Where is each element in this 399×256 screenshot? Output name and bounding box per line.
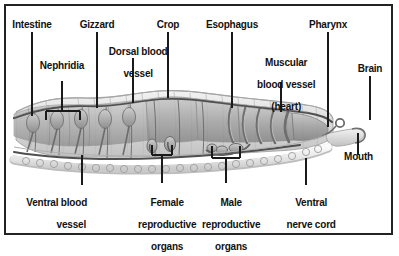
label-dorsal-blood-vessel-line1: Dorsal blood [109, 46, 168, 57]
label-muscular-blood-vessel-heart: Muscular blood vessel (heart) [244, 46, 318, 123]
label-pharynx: Pharynx [300, 19, 356, 30]
label-female-line3: organs [151, 241, 183, 252]
label-gizzard: Gizzard [67, 19, 127, 30]
label-nephridia: Nephridia [30, 60, 94, 71]
label-dorsal-blood-vessel-line2: vessel [123, 68, 152, 79]
label-nerve-cord-line2: nerve cord [287, 219, 336, 230]
label-mouth: Mouth [344, 151, 396, 162]
label-heart-line3: (heart) [271, 101, 301, 112]
label-female-line1: Female [151, 197, 184, 208]
label-nerve-cord-line1: Ventral [295, 197, 327, 208]
label-male-line3: organs [215, 241, 247, 252]
label-ventral-blood-vessel-line2: vessel [57, 219, 86, 230]
crop-organ [146, 97, 198, 143]
label-heart-line2: blood vessel [257, 79, 315, 90]
label-crop: Crop [140, 19, 196, 30]
label-ventral-blood-vessel: Ventral blood vessel [16, 186, 86, 241]
label-ventral-blood-vessel-line1: Ventral blood [26, 197, 87, 208]
label-brain: Brain [346, 63, 394, 74]
label-esophagus: Esophagus [200, 19, 264, 30]
label-intestine: Intestine [2, 19, 62, 30]
label-male-line2: reproductive [202, 219, 260, 230]
label-dorsal-blood-vessel: Dorsal blood vessel [96, 35, 170, 90]
label-ventral-nerve-cord: Ventral nerve cord [272, 186, 340, 241]
label-heart-line1: Muscular [265, 57, 307, 68]
label-male-reproductive-organs: Male reproductive organs [188, 186, 264, 256]
label-male-line1: Male [220, 197, 241, 208]
